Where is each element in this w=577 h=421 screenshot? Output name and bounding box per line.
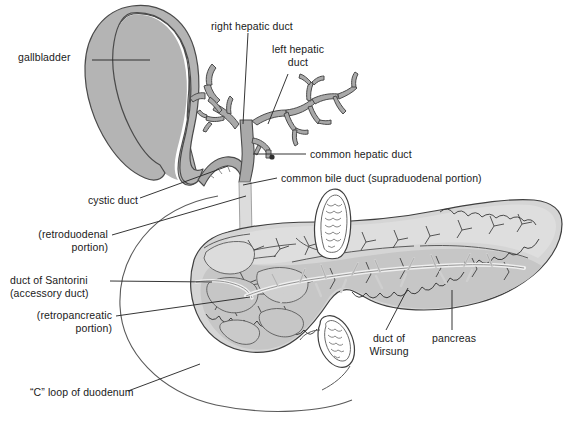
label-gallbladder: gallbladder	[18, 51, 70, 64]
label-retroduodenal-portion: (retroduodenal portion)	[0, 228, 108, 254]
label-cystic-duct: cystic duct	[88, 194, 138, 207]
label-retropancreatic-portion: (retropancreatic portion)	[0, 309, 112, 335]
label-common-bile-duct: common bile duct (supraduodenal portion)	[281, 172, 482, 185]
label-right-hepatic-duct: right hepatic duct	[211, 20, 293, 33]
leader-right-hepatic-duct	[243, 33, 248, 124]
label-c-loop-of-duodenum: “C” loop of duodenum	[30, 386, 134, 399]
figure-canvas: gallbladder right hepatic duct left hepa…	[0, 0, 577, 421]
label-common-hepatic-duct: common hepatic duct	[310, 148, 412, 161]
label-left-hepatic-duct: left hepatic duct	[272, 43, 324, 69]
label-duct-of-wirsung: duct of Wirsung	[360, 332, 418, 358]
gallbladder-shape	[85, 5, 204, 192]
label-pancreas: pancreas	[432, 332, 476, 345]
leader-c-loop-duodenum	[128, 364, 200, 391]
label-duct-of-santorini: duct of Santorini (accessory duct)	[10, 274, 89, 300]
